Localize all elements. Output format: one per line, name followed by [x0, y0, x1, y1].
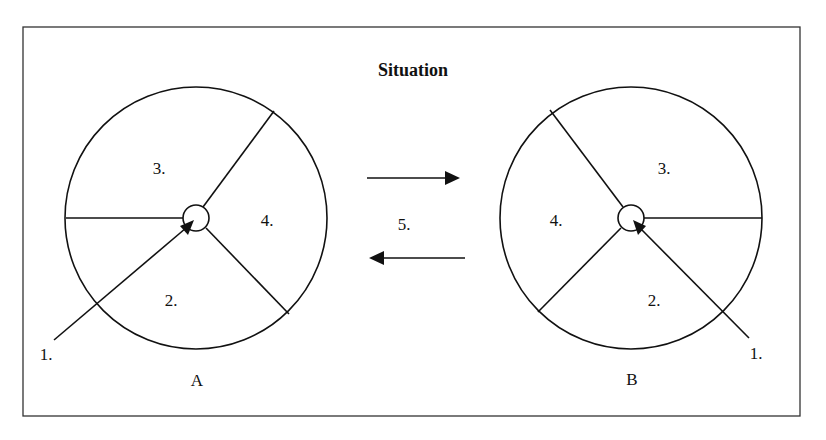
- diagram-title: Situation: [378, 60, 448, 80]
- wheel-a-segment-2-label: 2.: [165, 291, 178, 310]
- transition-label: 5.: [398, 215, 411, 234]
- diagram-frame: [23, 27, 800, 416]
- situation-diagram: Situation 3. 4. 2. 1. A 5.: [0, 0, 826, 440]
- wheel-b-pointer-line: [640, 228, 749, 338]
- wheel-b: 3. 4. 2. 1. B: [500, 87, 762, 389]
- wheel-a-segment-4-label: 4.: [261, 211, 274, 230]
- left-arrow-icon: [369, 251, 384, 265]
- wheel-a-segment-3-label: 3.: [153, 159, 166, 178]
- wheel-a: 3. 4. 2. 1. A: [40, 87, 327, 390]
- wheel-b-spoke-lower-left: [538, 228, 621, 312]
- wheel-b-segment-4-label: 4.: [550, 211, 563, 230]
- wheel-b-name: B: [626, 370, 637, 389]
- right-arrow-icon: [445, 171, 460, 185]
- transition: 5.: [367, 171, 465, 265]
- wheel-a-spoke-lower-right: [206, 228, 289, 314]
- wheel-b-segment-3-label: 3.: [658, 159, 671, 178]
- wheel-a-pointer-label: 1.: [40, 345, 53, 364]
- wheel-b-pointer-label: 1.: [750, 344, 763, 363]
- wheel-a-pointer-line: [54, 228, 186, 340]
- wheel-b-spoke-upper-left: [550, 110, 623, 207]
- wheel-a-name: A: [191, 371, 204, 390]
- wheel-b-segment-2-label: 2.: [648, 291, 661, 310]
- wheel-a-spoke-upper-right: [203, 111, 274, 207]
